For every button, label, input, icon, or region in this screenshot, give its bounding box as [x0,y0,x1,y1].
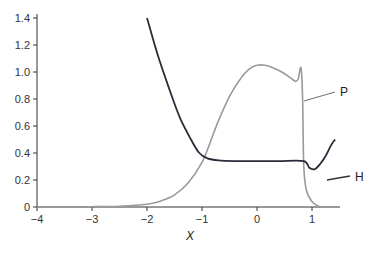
x-tick-label: −2 [141,213,154,225]
y-tick-label: 0 [24,201,30,213]
x-tick-label: 1 [309,213,315,225]
y-ticks: 00.20.40.60.81.01.21.4 [15,12,37,213]
x-tick-label: −3 [86,213,99,225]
x-tick-label: 0 [254,213,260,225]
x-ticks: −4−3−2−101 [31,207,315,225]
y-tick-label: 1.2 [15,39,30,51]
h-leader-line [327,176,350,180]
y-tick-label: 0.2 [15,174,30,186]
y-tick-label: 1.4 [15,12,30,24]
p-leader-line [304,92,335,101]
p-label: P [340,85,348,99]
y-tick-label: 0.6 [15,120,30,132]
series-h-line [147,18,335,169]
y-tick-label: 1.0 [15,66,30,78]
x-tick-label: −4 [31,213,44,225]
h-label: H [355,170,364,184]
x-tick-label: −1 [196,213,209,225]
y-tick-label: 0.8 [15,93,30,105]
y-tick-label: 0.4 [15,147,30,159]
chart: −4−3−2−101 00.20.40.60.81.01.21.4 X P H [0,0,374,255]
x-axis-label: X [185,229,195,243]
